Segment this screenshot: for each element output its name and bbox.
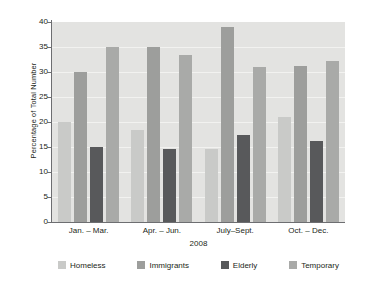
x-axis-line <box>51 222 345 223</box>
bar-temporary <box>253 67 266 223</box>
y-axis-tick-mark <box>47 197 51 198</box>
x-axis-tick-label: July–Sept. <box>199 226 272 236</box>
bar-elderly <box>90 147 103 222</box>
x-axis-tick-label: Apr. – Jun. <box>125 226 198 236</box>
bar-homeless <box>131 130 144 222</box>
legend-swatch-icon <box>221 261 229 269</box>
legend-label: Temporary <box>301 261 339 270</box>
bar-immigrants <box>74 72 87 222</box>
y-axis-tick-20: 20 <box>26 118 48 126</box>
y-axis-tick-mark <box>47 97 51 98</box>
x-axis-tick-label: Jan. – Mar. <box>52 226 125 236</box>
bar-group <box>272 22 345 222</box>
y-axis-tick-mark <box>47 172 51 173</box>
bar-group <box>199 22 272 222</box>
legend-swatch-icon <box>58 261 66 269</box>
y-axis-tick-0: 0 <box>26 218 48 226</box>
legend-item-elderly[interactable]: Elderly <box>221 261 257 270</box>
y-axis-tick-mark <box>47 122 51 123</box>
bar-homeless <box>205 149 218 223</box>
y-axis-tick-mark <box>47 222 51 223</box>
legend-item-homeless[interactable]: Homeless <box>58 261 106 270</box>
legend-label: Homeless <box>70 261 106 270</box>
legend-swatch-icon <box>289 261 297 269</box>
y-axis-tick-5: 5 <box>26 193 48 201</box>
legend-label: Elderly <box>233 261 257 270</box>
y-axis-tick-mark <box>47 22 51 23</box>
bar-group <box>125 22 198 222</box>
bar-elderly <box>237 135 250 222</box>
bar-temporary <box>106 47 119 222</box>
y-axis-tick-30: 30 <box>26 68 48 76</box>
x-axis-title: 2008 <box>52 239 345 248</box>
y-axis-tick-mark <box>47 47 51 48</box>
bar-homeless <box>58 122 71 222</box>
bar-immigrants <box>294 66 307 222</box>
y-axis-tick-15: 15 <box>26 143 48 151</box>
bar-elderly <box>163 149 176 223</box>
x-axis-tick-labels: Jan. – Mar.Apr. – Jun.July–Sept.Oct. – D… <box>52 226 345 240</box>
x-axis-tick-label: Oct. – Dec. <box>272 226 345 236</box>
y-axis-tick-mark <box>47 147 51 148</box>
bar-elderly <box>310 141 323 223</box>
y-axis-tick-10: 10 <box>26 168 48 176</box>
y-axis-tick-40: 40 <box>26 18 48 26</box>
plot-area <box>52 22 345 222</box>
bar-temporary <box>326 61 339 223</box>
chart-legend: HomelessImmigrantsElderlyTemporary <box>52 258 345 272</box>
bar-homeless <box>278 117 291 222</box>
y-axis-tick-mark <box>47 72 51 73</box>
legend-swatch-icon <box>137 261 145 269</box>
legend-label: Immigrants <box>149 261 189 270</box>
legend-item-temporary[interactable]: Temporary <box>289 261 339 270</box>
bar-group <box>52 22 125 222</box>
y-axis-tick-labels: 4035302520151050 <box>26 22 48 222</box>
bar-immigrants <box>221 27 234 223</box>
bar-chart: Percentage of Total Number 4035302520151… <box>0 0 367 281</box>
legend-item-immigrants[interactable]: Immigrants <box>137 261 189 270</box>
y-axis-tick-35: 35 <box>26 43 48 51</box>
bar-immigrants <box>147 47 160 222</box>
y-axis-tick-25: 25 <box>26 93 48 101</box>
bar-temporary <box>179 55 192 223</box>
